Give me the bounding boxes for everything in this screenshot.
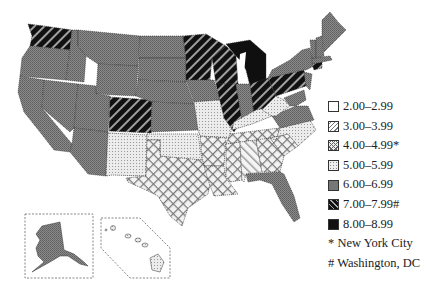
legend-item-2: 2.00–2.99 <box>328 97 420 117</box>
swatch-diagonal-light <box>328 121 339 132</box>
legend-label: 4.00–4.99* <box>343 136 399 156</box>
state-sd <box>138 58 186 82</box>
legend-label: 7.00–7.99# <box>343 195 399 215</box>
state-wy <box>96 64 138 96</box>
legend-item-3: 3.00–3.99 <box>328 117 420 137</box>
legend-label: 3.00–3.99 <box>343 117 393 137</box>
state-ms <box>226 142 242 182</box>
legend-item-6: 6.00–6.99 <box>328 175 420 195</box>
state-fl <box>246 172 300 222</box>
legend-label: 6.00–6.99 <box>343 175 393 195</box>
state-ks <box>151 102 198 132</box>
state-mt <box>78 30 140 66</box>
swatch-crosshatch <box>328 140 339 151</box>
legend-item-8: 8.00–8.99 <box>328 215 420 235</box>
state-hi <box>105 226 164 273</box>
legend-label: 2.00–2.99 <box>343 97 393 117</box>
state-az <box>70 128 108 176</box>
legend-label: 8.00–8.99 <box>343 215 393 235</box>
state-ak <box>32 222 88 272</box>
state-me <box>322 12 346 52</box>
swatch-gray <box>328 180 339 191</box>
swatch-diagonal-dark <box>328 199 339 210</box>
state-wa <box>28 24 72 50</box>
note-new-york-city: * New York City <box>328 234 420 254</box>
state-nm <box>106 133 147 176</box>
legend-item-5: 5.00–5.99 <box>328 156 420 176</box>
swatch-black <box>328 219 339 230</box>
state-co <box>109 97 152 133</box>
legend-item-7: 7.00–7.99# <box>328 195 420 215</box>
state-ar <box>200 136 226 166</box>
state-or <box>20 46 70 80</box>
state-nj <box>304 72 312 90</box>
note-washington-dc: # Washington, DC <box>328 254 420 274</box>
state-nd <box>139 36 186 58</box>
legend-item-4: 4.00–4.99* <box>328 136 420 156</box>
swatch-dots <box>328 160 339 171</box>
legend: 2.00–2.99 3.00–3.99 4.00–4.99* 5.00–5.99… <box>328 97 420 273</box>
swatch-white <box>328 101 339 112</box>
legend-label: 5.00–5.99 <box>343 156 393 176</box>
